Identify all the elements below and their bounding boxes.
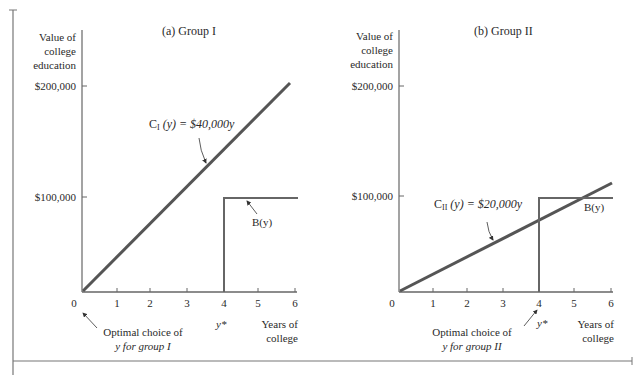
y-star-label-group-2: y* xyxy=(537,317,547,330)
x-tick-5: 5 xyxy=(568,297,580,310)
x-tick-0: 0 xyxy=(68,297,80,310)
y-axis-label-line2: college xyxy=(330,44,393,57)
cost-arrow-group-1 xyxy=(199,138,206,163)
panel-title-group-2: (b) Group II xyxy=(474,25,533,38)
y-axis-label-line3: education xyxy=(10,59,76,72)
x-tick-1: 1 xyxy=(111,297,123,310)
x-tick-6: 6 xyxy=(289,297,301,310)
x-axis-label-line2: college xyxy=(240,332,298,345)
x-tick-1: 1 xyxy=(427,297,439,310)
x-tick-4: 4 xyxy=(218,297,230,310)
x-tick-2: 2 xyxy=(461,297,473,310)
y-tick-100000: $100,000 xyxy=(10,191,76,204)
x-axis-label-line2: college xyxy=(556,332,614,345)
y-tick-200000: $200,000 xyxy=(10,80,76,93)
panel-title-group-1: (a) Group I xyxy=(162,25,216,38)
x-tick-0: 0 xyxy=(386,297,398,310)
optimal-note-line1: Optimal choice of xyxy=(95,326,191,339)
optimal-arrow-group-2 xyxy=(524,310,537,326)
x-tick-3: 3 xyxy=(181,297,193,310)
x-axis-label-line1: Years of xyxy=(556,318,614,331)
x-tick-6: 6 xyxy=(605,297,617,310)
y-star-label-group-1: y* xyxy=(216,318,226,331)
y-axis-label-line1: Value of xyxy=(20,31,76,44)
y-axis-label-line1: Value of xyxy=(330,30,393,43)
y-axis-label-line2: college xyxy=(20,45,76,58)
benefit-label-group-2: B(y) xyxy=(584,201,604,214)
x-tick-2: 2 xyxy=(144,297,156,310)
y-tick-200000: $200,000 xyxy=(325,80,393,93)
cost-arrow-group-2 xyxy=(487,222,493,240)
cost-line-group-1 xyxy=(83,83,290,291)
x-axis-label-line1: Years of xyxy=(240,318,298,331)
optimal-note-line2: y for group II xyxy=(424,340,520,353)
x-tick-5: 5 xyxy=(252,297,264,310)
y-axis-label-line3: education xyxy=(325,58,393,71)
left-panel-axes xyxy=(82,30,297,292)
optimal-note-line2: y for group I xyxy=(95,340,191,353)
right-panel-axes xyxy=(399,30,613,292)
x-tick-4: 4 xyxy=(533,297,545,310)
y-tick-100000: $100,000 xyxy=(325,190,393,203)
cost-label-group-2: CII (y) = $20,000y xyxy=(434,198,522,214)
benefit-arrow-group-1 xyxy=(247,201,257,214)
benefit-label-group-1: B(y) xyxy=(252,216,272,229)
cost-label-group-1: CI (y) = $40,000y xyxy=(149,118,234,134)
optimal-note-line1: Optimal choice of xyxy=(424,326,520,339)
benefit-step-group-1 xyxy=(224,198,298,292)
x-tick-3: 3 xyxy=(497,297,509,310)
